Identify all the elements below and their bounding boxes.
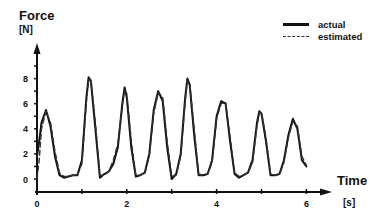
legend-item-actual: actual — [283, 18, 362, 30]
y-tick-label: 8 — [23, 74, 28, 84]
y-axis-unit: [N] — [19, 24, 33, 35]
y-tick-label: 0 — [23, 175, 28, 185]
y-tick-label: 2 — [23, 149, 28, 159]
legend-label: actual — [318, 19, 345, 30]
x-tick-label: 2 — [124, 199, 129, 209]
x-tick-label: 4 — [214, 199, 219, 209]
solid-line-icon — [283, 23, 309, 26]
y-tick-label: 6 — [23, 99, 28, 109]
y-axis-label: Force — [19, 8, 54, 23]
series-estimated — [37, 80, 306, 179]
x-axis-label: Time — [337, 173, 367, 188]
legend-item-estimated: estimated — [283, 30, 362, 42]
axes: 024680246 — [23, 43, 332, 209]
x-tick-label: 6 — [304, 199, 309, 209]
y-axis-arrow-icon — [34, 43, 41, 54]
x-axis-unit: [s] — [343, 197, 355, 208]
legend: actual estimated — [283, 18, 362, 42]
x-axis-arrow-icon — [320, 189, 332, 196]
legend-label: estimated — [318, 31, 362, 42]
dashed-line-icon — [283, 36, 309, 37]
x-tick-label: 0 — [34, 199, 39, 209]
series-lines — [37, 77, 306, 179]
y-tick-label: 4 — [23, 124, 28, 134]
series-actual — [37, 77, 306, 179]
